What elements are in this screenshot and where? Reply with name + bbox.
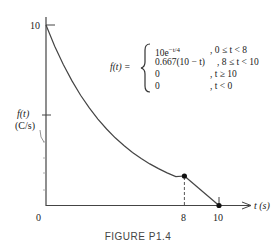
case-1-cond: , 0 ≤ t < 8 xyxy=(210,45,247,56)
case-3-expr: 0 xyxy=(155,69,160,80)
case-2-cond: , 8 ≤ t < 10 xyxy=(217,57,259,68)
y-axis-label: f(t) xyxy=(17,108,29,119)
case-4-cond: , t < 0 xyxy=(210,81,232,92)
label-pointer xyxy=(40,130,44,142)
plot-canvas xyxy=(0,0,276,250)
x-axis-label: t (s) xyxy=(254,200,270,211)
case-4-expr: 0 xyxy=(155,81,160,92)
linear-segment xyxy=(184,176,219,206)
y-axis-unit: (C/s) xyxy=(15,120,35,131)
x-tick-label-8: 8 xyxy=(181,212,186,223)
origin-label: 0 xyxy=(36,212,41,223)
marker-t8 xyxy=(182,173,187,178)
marker-t10 xyxy=(216,203,221,208)
case-2-expr: 0.667(10 − t) xyxy=(155,57,205,68)
case-1-exponent: −t/4 xyxy=(169,46,180,54)
figure-caption: FIGURE P1.4 xyxy=(0,231,276,242)
y-tick-label-10: 10 xyxy=(30,20,40,31)
case-3-cond: , t ≥ 10 xyxy=(210,69,237,80)
cases-brace xyxy=(141,44,150,92)
x-tick-label-10: 10 xyxy=(213,212,223,223)
equation-lhs: f(t) = xyxy=(110,62,130,73)
